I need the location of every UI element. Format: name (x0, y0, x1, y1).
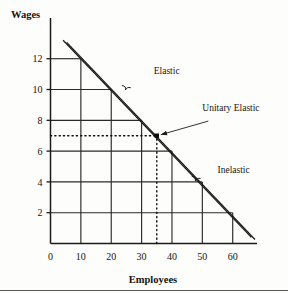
y-axis-title: Wages (11, 9, 40, 20)
annotation-label-inelastic: Inelastic (218, 165, 250, 175)
annotation-markers (122, 86, 208, 181)
annotation-arrow-line (161, 121, 209, 135)
x-axis-title: Employees (129, 274, 177, 285)
x-tick-label: 20 (106, 251, 116, 262)
y-axis-tick-labels: 24681012 (33, 53, 43, 218)
x-tick-label: 50 (197, 251, 207, 262)
unitary-elastic-point-marker (155, 134, 159, 138)
y-tick-label: 4 (38, 177, 43, 188)
y-tick-label: 12 (33, 53, 43, 64)
x-tick-label: 30 (137, 251, 147, 262)
annotation-label-unitary-elastic: Unitary Elastic (202, 103, 259, 113)
figure-container: 0102030405060 24681012 Wages Employees E… (0, 0, 288, 293)
y-tick-label: 10 (33, 84, 43, 95)
reference-lines (51, 136, 157, 244)
x-tick-label: 10 (76, 251, 86, 262)
x-tick-label: 0 (48, 251, 53, 262)
chart-gridlines (51, 59, 233, 244)
y-tick-label: 2 (38, 207, 43, 218)
annotation-arrow-head (161, 131, 168, 136)
footer-divider (0, 290, 288, 291)
y-tick-label: 8 (38, 115, 43, 126)
x-tick-label: 60 (228, 251, 238, 262)
elasticity-chart: 0102030405060 24681012 Wages Employees E… (0, 0, 288, 293)
annotation-label-elastic: Elastic (154, 66, 180, 76)
x-axis-tick-labels: 0102030405060 (48, 251, 238, 262)
x-tick-label: 40 (167, 251, 177, 262)
annotation-brace-marker (122, 86, 131, 90)
y-tick-label: 6 (38, 146, 43, 157)
